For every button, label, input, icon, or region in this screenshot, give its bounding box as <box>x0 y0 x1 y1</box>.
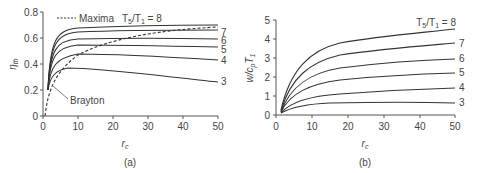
y-tick-label: 0.6 <box>24 33 38 44</box>
curve-label: 5 <box>459 67 465 78</box>
curve-a-4 <box>48 54 218 90</box>
x-tick-label: 50 <box>449 121 461 132</box>
y-tick-label: 0.4 <box>24 59 38 70</box>
x-tick-label: 20 <box>342 121 354 132</box>
y-axis-label-b: w/cpT1 <box>244 53 257 82</box>
x-tick-label: 20 <box>107 121 119 132</box>
curve-label: 4 <box>459 82 465 93</box>
brayton-pointer <box>53 86 68 99</box>
x-ticks-b: 0 10 20 30 40 50 <box>273 115 461 132</box>
curve-label: 7 <box>459 38 465 49</box>
x-tick-label: 30 <box>378 121 390 132</box>
x-tick-label: 40 <box>177 121 189 132</box>
y-ticks-b: 0 1 2 3 4 5 <box>264 15 276 121</box>
y-tick-label: 0.8 <box>24 7 38 18</box>
y-tick-label: 3 <box>264 53 270 64</box>
x-ticks-a: 0 10 20 30 40 50 <box>40 116 224 132</box>
legend-maxima: Maxima <box>79 13 114 24</box>
panel-a: 0 0.2 0.4 0.6 0.8 0 10 20 30 40 50 <box>7 7 227 168</box>
curve-a-5 <box>48 45 218 90</box>
y-axis-label-a: ηth <box>7 58 19 70</box>
y-tick-label: 0.2 <box>24 85 38 96</box>
x-tick-label: 10 <box>306 121 318 132</box>
curve-b-6 <box>281 59 455 112</box>
curve-label: 6 <box>459 53 465 64</box>
curve-a-3 <box>48 68 218 90</box>
y-tick-label: 5 <box>264 15 270 26</box>
x-tick-label: 40 <box>414 121 426 132</box>
x-tick-label: 50 <box>212 121 224 132</box>
curve-b-3 <box>281 102 455 113</box>
x-tick-label: 30 <box>142 121 154 132</box>
y-tick-label: 2 <box>264 72 270 83</box>
curve-label: 4 <box>221 55 227 66</box>
curve-label: 5 <box>221 44 227 55</box>
curve-label: 3 <box>459 97 465 108</box>
curve-b-4 <box>281 88 455 113</box>
x-axis-label-a: rc <box>122 138 129 150</box>
y-tick-label: 0 <box>264 110 270 121</box>
curve-a-8 <box>48 25 218 90</box>
ratio-label-a: T5/T1 = 8 <box>122 13 162 25</box>
curve-label: 3 <box>221 76 227 87</box>
panel-label-a: (a) <box>124 157 136 168</box>
curves-b <box>281 29 455 113</box>
panel-b: 0 1 2 3 4 5 0 10 20 30 40 50 <box>244 15 465 168</box>
ratio-label-b: T5/T1 = 8 <box>416 17 456 29</box>
brayton-label: Brayton <box>70 95 104 106</box>
x-tick-label: 0 <box>273 121 279 132</box>
y-tick-label: 1 <box>264 91 270 102</box>
x-tick-label: 0 <box>40 121 46 132</box>
panel-label-b: (b) <box>359 157 371 168</box>
y-tick-label: 4 <box>264 34 270 45</box>
y-ticks-a: 0 0.2 0.4 0.6 0.8 <box>24 7 43 122</box>
x-tick-label: 10 <box>72 121 84 132</box>
x-axis-label-b: rc <box>362 138 369 150</box>
y-tick-label: 0 <box>32 111 38 122</box>
figure: 0 0.2 0.4 0.6 0.8 0 10 20 30 40 50 <box>0 0 477 173</box>
